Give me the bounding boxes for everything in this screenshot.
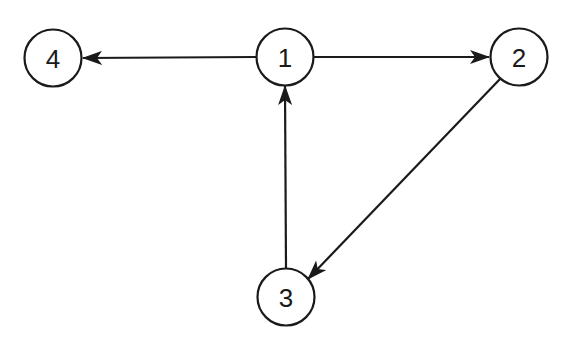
node-2-label: 2 — [512, 43, 526, 73]
graph-canvas: 1 2 3 4 — [0, 0, 568, 345]
node-1: 1 — [257, 29, 314, 86]
node-3-label: 3 — [279, 283, 293, 313]
edge-2-to-3 — [308, 79, 500, 279]
edge-1-to-4 — [83, 57, 256, 58]
node-4-label: 4 — [46, 44, 60, 74]
edge-3-to-1 — [285, 86, 286, 268]
node-1-label: 1 — [278, 43, 292, 73]
node-4: 4 — [25, 30, 82, 87]
node-3: 3 — [258, 269, 315, 326]
node-2: 2 — [491, 29, 548, 86]
